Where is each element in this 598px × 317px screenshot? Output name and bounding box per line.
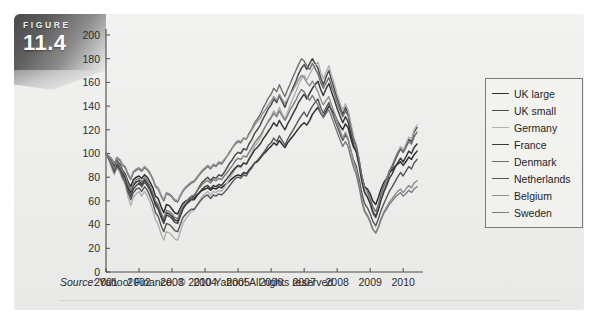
- y-tick-label: 80: [88, 171, 100, 183]
- legend-item-netherlands[interactable]: Netherlands: [492, 170, 577, 187]
- legend-item-label: Netherlands: [514, 173, 571, 185]
- source-caption: Source: Yahoo! Finance. © 2010 Yahoo! Al…: [60, 276, 336, 288]
- y-tick-label: 20: [88, 242, 100, 254]
- y-tick-label: 200: [82, 29, 100, 41]
- y-tick-label: 60: [88, 195, 100, 207]
- legend-swatch-icon: [492, 212, 509, 213]
- y-tick-label: 140: [82, 100, 100, 112]
- y-tick-label: 120: [82, 124, 100, 136]
- legend-item-france[interactable]: France: [492, 136, 577, 153]
- legend-swatch-icon: [492, 110, 509, 111]
- y-tick-label: 40: [88, 218, 100, 230]
- y-tick-label: 100: [82, 147, 100, 159]
- legend-item-denmark[interactable]: Denmark: [492, 153, 577, 170]
- chart-legend: UK largeUK smallGermanyFranceDenmarkNeth…: [485, 78, 583, 228]
- x-tick-label: 2009: [358, 276, 382, 288]
- legend-item-sweden[interactable]: Sweden: [492, 204, 577, 221]
- y-tick-label: 180: [82, 53, 100, 65]
- source-text: : Yahoo! Finance. © 2010 Yahoo! All righ…: [93, 276, 336, 288]
- figure-card: FIGURE 11.4 020406080100120140160180200 …: [14, 14, 584, 310]
- legend-swatch-icon: [492, 93, 509, 94]
- legend-item-label: Germany: [514, 122, 557, 134]
- legend-item-label: Denmark: [514, 156, 557, 168]
- legend-item-uk-small[interactable]: UK small: [492, 102, 577, 119]
- legend-item-germany[interactable]: Germany: [492, 119, 577, 136]
- legend-item-label: Sweden: [514, 207, 552, 219]
- y-tick-label: 160: [82, 76, 100, 88]
- x-tick-label: 2010: [392, 276, 416, 288]
- legend-swatch-icon: [492, 144, 509, 145]
- bottom-divider: [60, 300, 560, 301]
- source-label: Source: [60, 276, 93, 288]
- legend-item-uk-large[interactable]: UK large: [492, 85, 577, 102]
- legend-swatch-icon: [492, 178, 509, 179]
- legend-item-label: Belgium: [514, 190, 552, 202]
- legend-item-label: UK small: [514, 105, 556, 117]
- legend-item-label: France: [514, 139, 547, 151]
- legend-swatch-icon: [492, 161, 509, 162]
- chart-series-group: [106, 59, 417, 240]
- legend-item-label: UK large: [514, 88, 555, 100]
- legend-swatch-icon: [492, 195, 509, 196]
- legend-swatch-icon: [492, 127, 509, 128]
- legend-item-belgium[interactable]: Belgium: [492, 187, 577, 204]
